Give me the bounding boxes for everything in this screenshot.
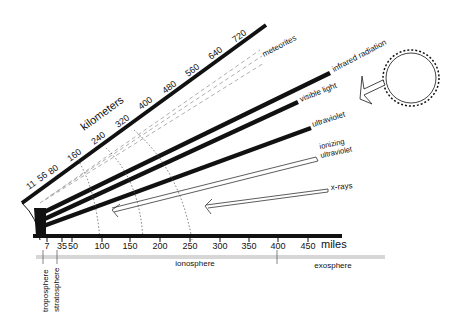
miles-unit-label: miles bbox=[321, 238, 347, 250]
xray-ray bbox=[205, 189, 328, 214]
atmosphere-diagram: 11 56 80 160 240 320 400 480 560 640 720… bbox=[0, 0, 458, 324]
mile-tick-400: 400 bbox=[270, 241, 285, 251]
mile-tick-200: 200 bbox=[152, 241, 167, 251]
mile-tick-450: 450 bbox=[300, 241, 315, 251]
meteorites-label: meteorites bbox=[261, 33, 298, 58]
mile-tick-350: 350 bbox=[241, 241, 256, 251]
mile-tick-100: 100 bbox=[94, 241, 109, 251]
ionosphere-label: ionosphere bbox=[175, 259, 215, 268]
km-axis-line bbox=[22, 25, 266, 203]
stratosphere-label: stratosphere bbox=[52, 267, 61, 312]
ultraviolet-label: ultraviolet bbox=[311, 110, 347, 129]
km-tick-11: 11 bbox=[24, 178, 37, 192]
ultraviolet-ray bbox=[38, 128, 311, 228]
mile-tick-150: 150 bbox=[122, 241, 137, 251]
exosphere-label: exosphere bbox=[314, 261, 352, 270]
mile-tick-35: 35 bbox=[57, 241, 67, 251]
km-tick-56: 56 bbox=[35, 170, 49, 184]
mile-tick-50: 50 bbox=[68, 241, 78, 251]
mile-tick-300: 300 bbox=[212, 241, 227, 251]
sun-arrow bbox=[360, 76, 385, 104]
xrays-label: x-rays bbox=[330, 181, 352, 192]
troposphere-label: troposphere bbox=[41, 269, 50, 312]
infrared-label: infrared radiation bbox=[331, 38, 388, 74]
mile-tick-7: 7 bbox=[44, 241, 49, 251]
meteorite-trails bbox=[40, 50, 264, 203]
mile-tick-250: 250 bbox=[182, 241, 197, 251]
sun-icon bbox=[383, 50, 439, 106]
